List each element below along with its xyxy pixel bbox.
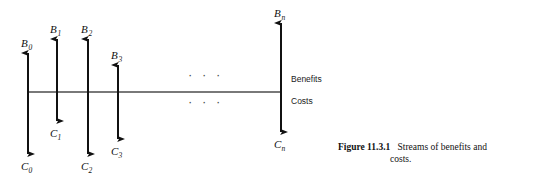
figure-container: B 0 C 0 B 1 C 1 B 2 C 2 B 3	[0, 0, 544, 184]
cost-label-2-subscript: 2	[89, 166, 93, 175]
ellipsis-below-axis: · · ·	[188, 94, 223, 109]
period-group-0: B 0 C 0	[21, 37, 33, 175]
costs-region-label: Costs	[291, 96, 313, 106]
period-group-n: B n C n	[274, 7, 286, 153]
period-group-1: B 1 C 1	[50, 23, 61, 142]
cost-label-3-subscript: 3	[118, 151, 123, 160]
benefit-label-n-subscript: n	[282, 13, 286, 22]
benefit-label-3: B	[111, 49, 118, 61]
cost-label-n-subscript: n	[282, 144, 286, 153]
figure-caption-number: Figure 11.3.1	[338, 142, 390, 152]
figure-caption: Figure 11.3.1 Streams of benefits and co…	[338, 142, 538, 165]
benefit-label-2: B	[81, 23, 88, 35]
ellipsis-above-axis: · · ·	[188, 67, 223, 82]
period-group-2: B 2 C 2	[81, 23, 93, 175]
benefits-region-label: Benefits	[291, 74, 322, 84]
figure-caption-line1: Streams of benefits and	[397, 142, 486, 152]
benefit-label-1-subscript: 1	[58, 29, 62, 38]
benefit-label-0-subscript: 0	[29, 43, 33, 52]
cost-label-0-subscript: 0	[29, 166, 33, 175]
period-group-3: B 3 C 3	[111, 49, 123, 160]
benefit-label-2-subscript: 2	[89, 29, 93, 38]
figure-caption-line2: costs.	[390, 154, 538, 166]
cost-label-1-subscript: 1	[58, 133, 62, 142]
benefit-label-0: B	[21, 37, 28, 49]
benefit-label-n: B	[274, 7, 281, 19]
benefit-label-1: B	[50, 23, 57, 35]
benefit-label-3-subscript: 3	[118, 55, 123, 64]
